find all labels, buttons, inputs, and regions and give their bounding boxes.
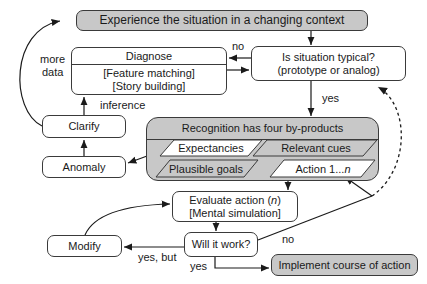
- will-it-work-box: Will it work?: [184, 232, 258, 257]
- yes-but-label: yes, but: [138, 251, 177, 263]
- implement-box: Implement course of action: [271, 254, 418, 276]
- yes-label-bottom: yes: [190, 260, 207, 272]
- more-label: more: [40, 53, 65, 65]
- no-label-top: no: [232, 40, 244, 52]
- action-n: n: [344, 163, 350, 175]
- data-label: data: [42, 66, 63, 78]
- implement-label: Implement course of action: [278, 259, 410, 271]
- evaluate-action-box: Evaluate action (n) [Mental simulation]: [172, 191, 298, 222]
- modify-label: Modify: [68, 240, 100, 252]
- inference-label: inference: [100, 99, 145, 111]
- no-label-bottom: no: [282, 233, 294, 245]
- evaluate-line1: Evaluate action (n): [173, 194, 297, 207]
- relevant-cues-item: Relevant cues: [262, 142, 370, 155]
- will-it-work-label: Will it work?: [192, 238, 251, 250]
- evaluate-line2: [Mental simulation]: [173, 207, 297, 220]
- expectancies-item: Expectancies: [168, 142, 254, 155]
- action-label: Action 1...: [295, 163, 344, 175]
- action-item: Action 1...n: [278, 163, 368, 176]
- yes-label-mid: yes: [322, 92, 339, 104]
- evaluate-close: ): [277, 194, 281, 206]
- modify-box: Modify: [47, 235, 122, 257]
- plausible-goals-item: Plausible goals: [162, 163, 250, 176]
- evaluate-text: Evaluate action (: [189, 194, 271, 206]
